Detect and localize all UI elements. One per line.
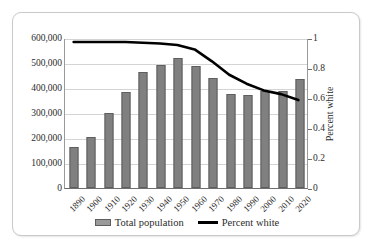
left-axis-tick-label: 300,000 — [2, 109, 62, 119]
right-axis-tick-label: 0.8 — [313, 64, 335, 74]
bar[interactable] — [261, 91, 270, 189]
bar-slot — [257, 39, 274, 188]
left-axis-tick-label: 600,000 — [2, 34, 62, 44]
plot-area — [64, 39, 308, 189]
bar-slot — [117, 39, 134, 188]
bar[interactable] — [139, 72, 148, 188]
chart-legend: Total population Percent white — [13, 217, 361, 228]
left-axis-tick-label: 500,000 — [2, 59, 62, 69]
legend-label-percent-white: Percent white — [222, 217, 279, 228]
bar[interactable] — [209, 78, 218, 188]
right-axis-tick-label: 1 — [313, 34, 335, 44]
left-axis-tick-label: 0 — [2, 184, 62, 194]
right-axis-tick — [308, 189, 312, 190]
bar[interactable] — [191, 66, 200, 188]
bar[interactable] — [296, 79, 305, 188]
legend-item-percent-white[interactable]: Percent white — [198, 217, 279, 228]
bar-slot — [100, 39, 117, 188]
chart-frame: 0100,000200,000300,000400,000500,000600,… — [12, 12, 360, 236]
left-axis-tick-label: 100,000 — [2, 159, 62, 169]
bar[interactable] — [87, 137, 96, 188]
bar-slot — [239, 39, 256, 188]
legend-item-total-population[interactable]: Total population — [95, 217, 184, 228]
bar-slot — [204, 39, 221, 188]
bar[interactable] — [226, 94, 235, 189]
bar-slot — [82, 39, 99, 188]
bar[interactable] — [69, 147, 78, 188]
right-axis-tick-label: 0 — [313, 184, 335, 194]
right-axis-tick-label: 0.2 — [313, 154, 335, 164]
bar-slot — [222, 39, 239, 188]
bar-slot — [274, 39, 291, 188]
bar[interactable] — [243, 95, 252, 189]
left-axis-tick-label: 200,000 — [2, 134, 62, 144]
bar[interactable] — [104, 113, 113, 189]
bar-slot — [152, 39, 169, 188]
bar-slot — [65, 39, 82, 188]
legend-label-total-population: Total population — [115, 217, 184, 228]
bar-slot — [187, 39, 204, 188]
bar[interactable] — [278, 91, 287, 189]
bar-slot — [135, 39, 152, 188]
bar[interactable] — [156, 65, 165, 189]
bar[interactable] — [121, 92, 130, 188]
right-axis-title: Percent white — [324, 87, 335, 142]
left-axis-tick-label: 400,000 — [2, 84, 62, 94]
bar[interactable] — [174, 58, 183, 189]
bar-slot — [292, 39, 309, 188]
legend-bar-swatch-icon — [95, 219, 111, 226]
bar-slot — [170, 39, 187, 188]
chart-plot-wrapper: 0100,000200,000300,000400,000500,000600,… — [13, 13, 361, 237]
legend-line-swatch-icon — [198, 221, 218, 224]
